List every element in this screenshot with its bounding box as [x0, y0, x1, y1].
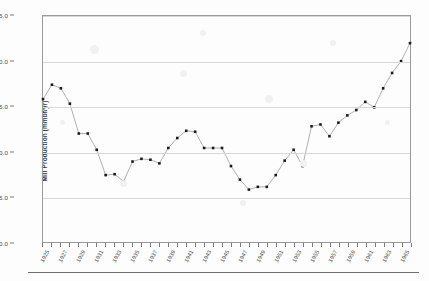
y-tick-label: 0.0: [0, 240, 8, 247]
data-point: [42, 98, 45, 101]
y-tick-mark: [10, 151, 14, 152]
y-tick-mark: [10, 106, 14, 107]
data-point: [140, 158, 143, 161]
data-point: [158, 162, 161, 165]
x-tick-mark: [240, 243, 241, 247]
y-tick-label: 10.0: [0, 148, 8, 155]
x-axis-labels: 1925192719291931193319351937193919411943…: [42, 249, 411, 279]
data-point: [310, 125, 313, 128]
x-tick-mark: [258, 243, 259, 247]
y-tick-mark: [10, 243, 14, 244]
data-point: [185, 130, 188, 133]
x-tick-mark: [267, 243, 268, 247]
plot-area: [42, 15, 411, 243]
data-point: [60, 87, 63, 90]
data-point: [113, 173, 116, 176]
data-point: [257, 186, 260, 189]
x-tick-label: 1925: [39, 249, 50, 263]
x-tick-label: 1927: [57, 249, 68, 263]
x-tick-mark: [303, 243, 304, 247]
y-tick-label: 15.0: [0, 103, 8, 110]
y-axis: 0.05.010.015.020.025.0: [0, 0, 42, 244]
x-tick-mark: [321, 243, 322, 247]
x-tick-label: 1941: [183, 249, 194, 263]
data-point: [319, 123, 322, 126]
x-tick-mark: [177, 243, 178, 247]
x-tick-label: 1955: [309, 249, 320, 263]
x-tick-mark: [123, 243, 124, 247]
x-tick-mark: [78, 243, 79, 247]
data-point: [176, 137, 179, 140]
data-point: [221, 147, 224, 150]
x-tick-mark: [348, 243, 349, 247]
x-tick-mark: [132, 243, 133, 247]
y-tick-mark: [10, 197, 14, 198]
data-point: [391, 72, 394, 75]
data-point: [104, 174, 107, 177]
x-tick-mark: [357, 243, 358, 247]
x-tick-mark: [213, 243, 214, 247]
x-tick-label: 1933: [111, 249, 122, 263]
x-tick-label: 1965: [399, 249, 410, 263]
data-point: [292, 149, 295, 152]
x-tick-mark: [375, 243, 376, 247]
data-point: [167, 147, 170, 150]
data-point: [409, 42, 412, 45]
y-tick-label: 25.0: [0, 12, 8, 19]
x-tick-label: 1963: [381, 249, 392, 263]
data-point: [355, 109, 358, 112]
x-tick-mark: [96, 243, 97, 247]
x-tick-label: 1937: [147, 249, 158, 263]
gridline-10.0: [43, 153, 410, 154]
x-tick-mark: [168, 243, 169, 247]
x-tick-label: 1947: [237, 249, 248, 263]
data-point: [265, 186, 268, 189]
data-point: [239, 178, 242, 181]
x-tick-label: 1949: [255, 249, 266, 263]
x-tick-mark: [276, 243, 277, 247]
data-point: [122, 180, 125, 183]
data-point: [95, 149, 98, 152]
x-tick-mark: [42, 243, 43, 247]
x-tick-mark: [69, 243, 70, 247]
x-tick-mark: [60, 243, 61, 247]
x-tick-mark: [186, 243, 187, 247]
data-point: [364, 101, 367, 104]
gridline-25.0: [43, 16, 410, 17]
data-point: [149, 158, 152, 161]
gridline-15.0: [43, 107, 410, 108]
x-tick-mark: [87, 243, 88, 247]
data-point: [78, 132, 81, 135]
x-tick-mark: [231, 243, 232, 247]
x-tick-mark: [393, 243, 394, 247]
data-point: [194, 130, 197, 133]
y-tick-label: 5.0: [0, 194, 8, 201]
x-tick-label: 1943: [201, 249, 212, 263]
data-point: [248, 188, 251, 191]
series-line: [43, 43, 410, 189]
x-tick-label: 1929: [75, 249, 86, 263]
x-tick-mark: [294, 243, 295, 247]
x-tick-mark: [204, 243, 205, 247]
x-tick-mark: [141, 243, 142, 247]
y-tick-mark: [10, 60, 14, 61]
bottom-rule: [28, 272, 419, 273]
x-tick-label: 1939: [165, 249, 176, 263]
x-tick-mark: [195, 243, 196, 247]
gridline-20.0: [43, 62, 410, 63]
data-point: [212, 147, 215, 150]
x-tick-label: 1961: [363, 249, 374, 263]
data-point: [51, 83, 54, 86]
data-point: [337, 121, 340, 124]
x-tick-mark: [339, 243, 340, 247]
chart-figure: Mill Production (mmbf/yr) 0.05.010.015.0…: [0, 0, 429, 281]
data-point: [346, 114, 349, 117]
x-tick-label: 1931: [93, 249, 104, 263]
data-point: [301, 165, 304, 168]
data-point: [69, 102, 72, 105]
x-tick-mark: [222, 243, 223, 247]
x-tick-mark: [105, 243, 106, 247]
data-point: [86, 132, 89, 135]
y-tick-mark: [10, 15, 14, 16]
x-tick-mark: [150, 243, 151, 247]
